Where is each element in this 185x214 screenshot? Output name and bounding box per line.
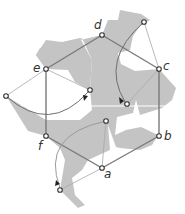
point-left xyxy=(4,94,9,99)
label-a: a xyxy=(104,168,111,180)
diagram: d e c f b a xyxy=(0,0,185,214)
label-c: c xyxy=(163,60,170,72)
point-f xyxy=(44,134,49,139)
point-top-right xyxy=(142,20,147,25)
point-d xyxy=(100,33,105,38)
point-bottom-left xyxy=(58,188,63,193)
arrow-icon xyxy=(83,95,88,101)
point-inner-a xyxy=(104,119,109,124)
tile-shape xyxy=(6,10,176,208)
point-inner-c xyxy=(125,102,130,107)
label-f: f xyxy=(38,140,42,152)
point-b xyxy=(157,134,162,139)
diagram-canvas xyxy=(0,0,185,214)
point-c xyxy=(157,67,162,72)
label-b: b xyxy=(164,130,172,142)
label-d: d xyxy=(94,19,102,31)
point-e xyxy=(44,67,49,72)
label-e: e xyxy=(33,62,40,74)
point-inner-e xyxy=(88,88,93,93)
